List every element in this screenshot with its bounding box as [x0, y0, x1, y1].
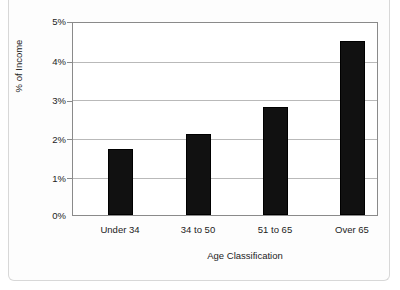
y-tick-label-4: 4% [26, 57, 66, 67]
scanned-page: 5% 4% 3% 2% 1% 0% % of Income Under 34 3… [0, 0, 400, 290]
y-tick-label-0: 0% [26, 211, 66, 221]
y-tick-label-1: 1% [26, 174, 66, 184]
x-tick-label-over-65: Over 65 [307, 224, 397, 235]
bar-51-to-65[interactable] [263, 107, 288, 215]
y-tick-label-2: 2% [26, 135, 66, 145]
y-axis-title: % of Income [13, 16, 31, 116]
x-tick-label-under-34: Under 34 [75, 224, 165, 235]
gridline-2 [73, 139, 377, 140]
gridline-3 [73, 100, 377, 101]
y-tick-label-5: 5% [26, 17, 66, 27]
plot-area [72, 22, 378, 216]
bar-over-65[interactable] [340, 41, 365, 215]
bar-under-34[interactable] [108, 149, 133, 215]
y-tick-label-3: 3% [26, 96, 66, 106]
gridline-4 [73, 62, 377, 63]
bar-34-to-50[interactable] [186, 134, 211, 215]
bar-chart: 5% 4% 3% 2% 1% 0% % of Income Under 34 3… [0, 0, 400, 290]
x-axis-title: Age Classification [150, 250, 340, 261]
